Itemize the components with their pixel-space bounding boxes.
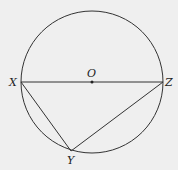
label-z: Z <box>164 76 173 89</box>
label-o: O <box>87 67 96 80</box>
center-point <box>91 81 94 84</box>
segment-yz <box>71 82 163 151</box>
circle-diagram: O X Z Y <box>0 0 178 170</box>
segment-xy <box>21 82 71 151</box>
label-y: Y <box>67 154 76 167</box>
label-x: X <box>8 76 18 89</box>
